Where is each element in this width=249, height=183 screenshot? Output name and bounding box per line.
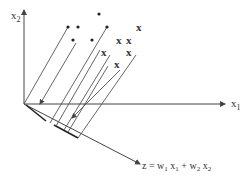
class-dots [66, 12, 108, 41]
z-axis-label: z = w1 x1 + w2 x2 [142, 160, 212, 173]
x2-axis-label: x2 [11, 9, 21, 24]
svg-text:x: x [136, 21, 142, 33]
x1-axis-label: x1 [231, 97, 241, 112]
svg-text:x: x [116, 34, 122, 46]
svg-text:x: x [114, 58, 120, 70]
svg-text:x: x [101, 46, 107, 58]
z-projection-segment-dots [26, 105, 46, 121]
svg-text:x: x [126, 34, 132, 46]
svg-text:x: x [126, 46, 132, 58]
projection-diagram: x x x x x x x2 x1 z = w1 x1 + w2 x2 [0, 0, 249, 183]
z-axis [24, 104, 140, 164]
